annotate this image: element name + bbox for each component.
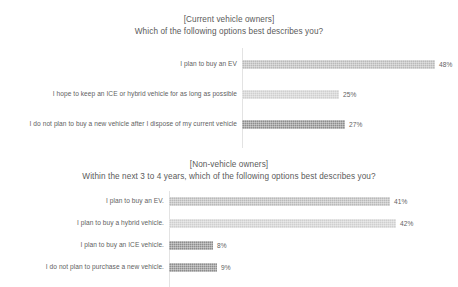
bar-category-label: I plan to buy an ICE vehicle. [0,241,169,249]
bar-track: 9% [169,263,458,272]
bar-track: 42% [169,219,458,228]
bar-category-label: I plan to buy an EV [0,60,242,68]
bar-value-label: 48% [435,61,452,68]
bar-row: I plan to buy a hybrid vehicle. 42% [0,214,458,232]
bar-row: I plan to buy an EV 48% [0,50,458,78]
bar-row: I hope to keep an ICE or hybrid vehicle … [0,80,458,108]
bar-track: 41% [169,197,458,206]
bar-category-label: I hope to keep an ICE or hybrid vehicle … [0,90,242,98]
bar-value [169,263,217,272]
bar-row: I plan to buy an ICE vehicle. 8% [0,236,458,254]
bar-value [242,90,339,99]
bar-track: 25% [242,90,458,99]
chart-current-vehicle-owners: [Current vehicle owners] Which of the fo… [0,0,458,150]
bar-row: I do not plan to buy a new vehicle after… [0,110,458,138]
chart-subtitle-line: Within the next 3 to 4 years, which of t… [0,171,458,183]
chart-title-non-owners: [Non-vehicle owners] Within the next 3 t… [0,150,458,182]
bar-value-label: 8% [213,242,227,249]
bar-track: 48% [242,60,458,69]
plot-area-non-owners: I plan to buy an EV. 41% I plan to buy a… [0,191,458,287]
chart-title-line: [Current vehicle owners] [0,14,458,26]
plot-area-current-owners: I plan to buy an EV 48% I hope to keep a… [0,48,458,148]
bar-row: I do not plan to purchase a new vehicle.… [0,258,458,276]
chart-title-line: [Non-vehicle owners] [0,159,458,171]
chart-non-vehicle-owners: [Non-vehicle owners] Within the next 3 t… [0,150,458,282]
bar-row: I plan to buy an EV. 41% [0,192,458,210]
chart-title-current-owners: [Current vehicle owners] Which of the fo… [0,0,458,37]
bar-value [242,120,345,129]
chart-subtitle-line: Which of the following options best desc… [0,26,458,38]
bar-category-label: I plan to buy a hybrid vehicle. [0,219,169,227]
bar-value [169,241,213,250]
bar-category-label: I plan to buy an EV. [0,197,169,205]
bar-value [169,197,390,206]
bar-value-label: 42% [396,220,413,227]
bar-value-label: 41% [390,198,407,205]
bar-value [169,219,396,228]
bar-value-label: 9% [217,264,231,271]
bar-value-label: 27% [345,121,362,128]
bar-value [242,60,435,69]
bar-track: 27% [242,120,458,129]
bar-track: 8% [169,241,458,250]
bar-value-label: 25% [339,91,356,98]
bar-category-label: I do not plan to buy a new vehicle after… [0,120,242,128]
bar-category-label: I do not plan to purchase a new vehicle. [0,263,169,271]
